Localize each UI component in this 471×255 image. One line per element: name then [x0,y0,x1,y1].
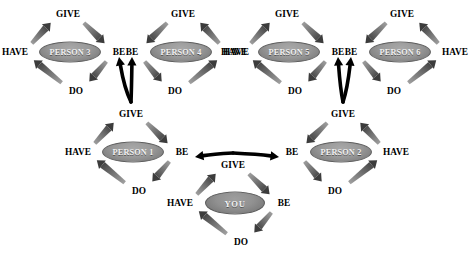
verb-give-you: GIVE [221,160,245,170]
cycle-arrow-head [207,174,216,183]
cycle-arrow-head [199,211,208,220]
verb-be-person6: BE [345,47,358,57]
verb-have-person1: HAVE [65,147,91,157]
cycle-arrow-head [200,23,209,32]
cycle-arrow-shaft [37,62,63,84]
cycle-arrow-head [89,72,98,81]
cycle-arrow-head [208,60,217,69]
cycle-arrow-shaft [368,21,388,40]
link-arrow-head [270,151,279,160]
verb-do-you: DO [234,237,248,247]
node-label: PERSON 2 [321,148,362,157]
cycle-arrow-shaft [256,62,282,84]
connector-layer [0,0,471,255]
cycle-arrow-head [368,160,377,169]
node-label: PERSON 5 [269,48,310,57]
cycle-arrow-head [254,223,263,232]
verb-have-you: HAVE [167,198,193,208]
cycle-arrow-shaft [256,211,273,229]
node-person5[interactable]: PERSON 5 [258,42,320,63]
cycle-arrow-head [315,34,324,43]
verb-give-person5: GIVE [275,9,299,19]
cycle-arrow-head [365,34,374,43]
cycle-arrow-head [159,134,168,143]
verb-be-person1: BE [176,147,189,157]
node-you[interactable]: YOU [205,192,265,215]
cycle-arrow-head [306,134,315,143]
cycle-arrow-head [152,172,161,181]
link-arrow-line [339,65,343,102]
cycle-arrow-head [261,23,270,32]
verb-do-person2: DO [328,186,342,196]
cycle-arrow-head [34,60,43,69]
verb-be-person5: BE [332,47,345,57]
node-label: PERSON 3 [50,48,91,57]
node-label: YOU [225,198,246,208]
cycle-arrow-shaft [407,62,433,84]
node-label: PERSON 1 [113,148,154,157]
cycle-arrow-shaft [348,162,374,184]
cycle-arrow-shaft [247,172,267,191]
link-arrow-line [131,65,132,102]
cycle-arrow-shaft [188,62,214,84]
node-person6[interactable]: PERSON 6 [369,42,431,63]
link-arrow-head [127,57,136,66]
verb-be-you: BE [278,198,291,208]
cycle-arrow-head [372,72,381,81]
verb-give-person6: GIVE [390,9,414,19]
verb-have-person5: HAVE [221,47,247,57]
node-label: PERSON 6 [380,48,421,57]
node-label: PERSON 4 [161,48,202,57]
cycle-arrow-head [253,60,262,69]
cycle-arrow-shaft [249,26,267,45]
verb-have-person2: HAVE [383,147,409,157]
cycle-arrow-shaft [82,21,102,40]
verb-give-person2: GIVE [331,109,355,119]
diagram-canvas: YOUPERSON 1PERSON 2PERSON 3PERSON 4PERSO… [0,0,471,255]
cycle-arrow-shaft [421,26,439,45]
verb-give-person3: GIVE [56,9,80,19]
node-person2[interactable]: PERSON 2 [310,142,372,163]
verb-give-person4: GIVE [171,9,195,19]
link-arrow-head [345,57,354,66]
link-arrow-line [203,153,233,156]
cycle-arrow-head [261,185,270,194]
node-person4[interactable]: PERSON 4 [150,42,212,63]
verb-have-person6: HAVE [442,47,468,57]
cycle-arrow-shaft [362,126,380,145]
cycle-arrow-shaft [93,126,111,145]
cycle-arrow-shaft [195,177,213,196]
node-person3[interactable]: PERSON 3 [39,42,101,63]
verb-do-person6: DO [387,86,401,96]
cycle-arrow-shaft [301,21,321,40]
cycle-arrow-head [96,34,105,43]
link-arrow-head [116,57,125,66]
cycle-arrow-shaft [100,162,126,184]
cycle-arrow-shaft [202,26,220,45]
link-arrow-head [195,151,204,160]
cycle-arrow-shaft [145,121,165,140]
verb-do-person3: DO [69,86,83,96]
link-arrow-line [233,153,271,156]
verb-do-person5: DO [288,86,302,96]
cycle-arrow-head [105,123,114,132]
verb-do-person4: DO [168,86,182,96]
verb-be-person4: BE [126,47,139,57]
cycle-arrow-head [308,72,317,81]
verb-do-person1: DO [132,186,146,196]
link-arrow-line [343,65,350,102]
cycle-arrow-shaft [154,160,171,178]
cycle-arrow-head [360,123,369,132]
link-arrow-line [120,65,131,102]
cycle-arrow-head [42,23,51,32]
verb-be-person2: BE [286,147,299,157]
cycle-arrow-head [153,72,162,81]
cycle-arrow-shaft [309,121,329,140]
cycle-arrow-shaft [143,60,160,78]
verb-have-person3: HAVE [2,47,28,57]
cycle-arrow-head [313,172,322,181]
cycle-arrow-head [97,160,106,169]
node-person1[interactable]: PERSON 1 [102,142,164,163]
cycle-arrow-shaft [202,213,228,235]
cycle-arrow-head [427,60,436,69]
